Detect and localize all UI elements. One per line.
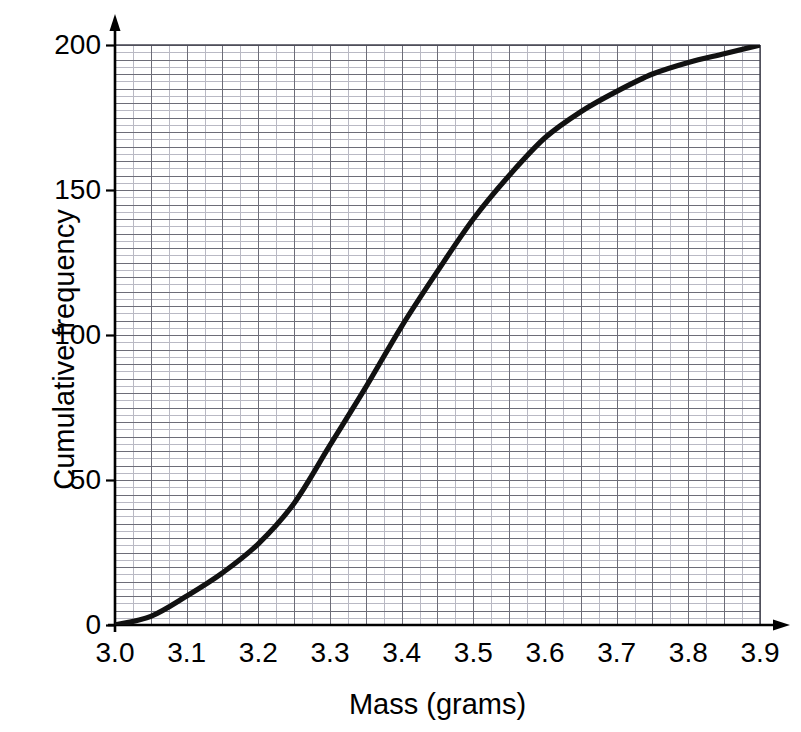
cumulative-frequency-chart: 050100150200 3.03.13.23.33.43.53.63.73.8… [0,0,801,732]
chart-canvas [0,0,801,732]
grid-major-lines [115,45,761,626]
x-tick-label: 3.7 [597,639,636,667]
x-axis-title: Mass (grams) [115,690,760,719]
x-tick-label: 3.3 [311,639,350,667]
y-tick-label: 0 [85,611,101,639]
x-tick-label: 3.9 [741,639,780,667]
x-tick-label: 3.0 [96,639,135,667]
x-tick-label: 3.6 [526,639,565,667]
x-tick-label: 3.1 [167,639,206,667]
y-tick-label: 200 [54,31,101,59]
x-tick-label: 3.8 [669,639,708,667]
x-tick-label: 3.5 [454,639,493,667]
x-tick-label: 3.2 [239,639,278,667]
x-tick-label: 3.4 [382,639,421,667]
y-axis-title: Cumulative frequency [50,140,79,560]
